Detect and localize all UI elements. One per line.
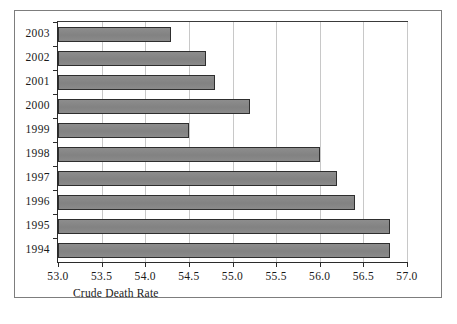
bar bbox=[58, 171, 337, 186]
y-tick-mark bbox=[53, 190, 58, 191]
y-tick-label: 2000 bbox=[25, 100, 50, 112]
y-tick-label: 2003 bbox=[25, 28, 50, 40]
bar-row: 1998 bbox=[58, 147, 407, 162]
y-tick-label: 2002 bbox=[25, 52, 50, 64]
y-tick-label: 2001 bbox=[25, 76, 50, 88]
y-tick-mark bbox=[53, 214, 58, 215]
bar bbox=[58, 99, 250, 114]
y-tick-mark bbox=[53, 22, 58, 23]
bar-row: 2001 bbox=[58, 75, 407, 90]
y-tick-mark bbox=[53, 94, 58, 95]
y-tick-label: 1994 bbox=[25, 244, 50, 256]
bar-row: 2000 bbox=[58, 99, 407, 114]
bar-row: 1997 bbox=[58, 171, 407, 186]
bar-row: 2002 bbox=[58, 51, 407, 66]
y-tick-mark bbox=[53, 166, 58, 167]
bar bbox=[58, 219, 390, 234]
y-tick-label: 1997 bbox=[25, 172, 50, 184]
bar bbox=[58, 243, 390, 258]
bar bbox=[58, 123, 189, 138]
y-tick-label: 1999 bbox=[25, 124, 50, 136]
bar-row: 2003 bbox=[58, 27, 407, 42]
figure-frame: 53.053.554.054.555.055.556.056.557.02003… bbox=[14, 10, 442, 298]
x-tick-mark bbox=[145, 262, 146, 267]
x-tick-label: 53.5 bbox=[91, 271, 112, 283]
y-tick-mark bbox=[53, 142, 58, 143]
x-tick-mark bbox=[407, 262, 408, 267]
bar bbox=[58, 75, 215, 90]
gridline bbox=[407, 22, 408, 262]
x-tick-mark bbox=[363, 262, 364, 267]
bar bbox=[58, 27, 171, 42]
x-axis-title: Crude Death Rate bbox=[73, 287, 159, 299]
x-tick-mark bbox=[102, 262, 103, 267]
x-tick-label: 54.0 bbox=[135, 271, 156, 283]
bar bbox=[58, 147, 320, 162]
x-tick-label: 57.0 bbox=[396, 271, 417, 283]
bar-row: 1996 bbox=[58, 195, 407, 210]
x-tick-mark bbox=[58, 262, 59, 267]
x-tick-label: 55.5 bbox=[265, 271, 286, 283]
y-tick-label: 1996 bbox=[25, 196, 50, 208]
x-tick-mark bbox=[189, 262, 190, 267]
x-tick-label: 56.0 bbox=[309, 271, 330, 283]
y-tick-mark bbox=[53, 118, 58, 119]
x-tick-mark bbox=[233, 262, 234, 267]
bar-row: 1999 bbox=[58, 123, 407, 138]
plot-area: 53.053.554.054.555.055.556.056.557.02003… bbox=[57, 21, 408, 263]
x-tick-label: 55.0 bbox=[222, 271, 243, 283]
y-tick-mark bbox=[53, 238, 58, 239]
bar-row: 1994 bbox=[58, 243, 407, 258]
x-tick-label: 56.5 bbox=[353, 271, 374, 283]
y-tick-mark bbox=[53, 46, 58, 47]
x-tick-label: 53.0 bbox=[47, 271, 68, 283]
y-tick-label: 1998 bbox=[25, 148, 50, 160]
x-tick-label: 54.5 bbox=[178, 271, 199, 283]
bar-row: 1995 bbox=[58, 219, 407, 234]
bar bbox=[58, 195, 355, 210]
x-tick-mark bbox=[320, 262, 321, 267]
x-tick-mark bbox=[276, 262, 277, 267]
y-tick-label: 1995 bbox=[25, 220, 50, 232]
y-tick-mark bbox=[53, 70, 58, 71]
bar bbox=[58, 51, 206, 66]
